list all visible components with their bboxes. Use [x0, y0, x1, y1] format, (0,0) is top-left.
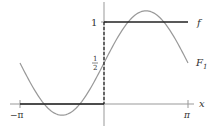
label-pi: π [183, 110, 191, 120]
label-half-num: 1 [93, 55, 97, 63]
label-F1: F1 [195, 57, 207, 71]
label-one: 1 [91, 17, 97, 28]
label-half-den: 2 [93, 64, 97, 72]
label-neg-pi: −π [10, 110, 24, 120]
label-f: f [196, 17, 203, 28]
fourier-chart: 1 1 2 f F1 −π π x [0, 0, 216, 128]
label-x: x [199, 98, 205, 109]
